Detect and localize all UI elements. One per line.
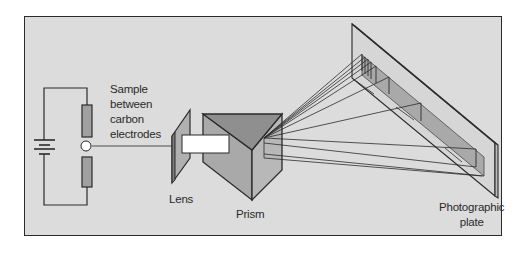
plate-label-line: Photographic: [439, 200, 504, 215]
sample-label-line: carbon: [110, 112, 161, 127]
sample-label-line: Sample: [110, 82, 161, 97]
sample-label-line: between: [110, 97, 161, 112]
lens-label: Lens: [169, 192, 193, 207]
battery-icon: [34, 140, 55, 154]
sample-sphere: [81, 141, 91, 151]
sample-label-line: electrodes: [110, 127, 161, 142]
lower-electrode: [82, 157, 92, 187]
prism-label: Prism: [236, 207, 264, 222]
circuit: [34, 88, 87, 205]
upper-electrode: [82, 105, 92, 137]
slit: [182, 135, 229, 153]
electrodes: [81, 105, 92, 187]
prism: [203, 114, 282, 200]
sample-label: Sample between carbon electrodes: [110, 82, 161, 142]
plate-label: Photographic plate: [439, 200, 504, 230]
plate-label-line: plate: [439, 215, 504, 230]
spectrum-band: [362, 55, 484, 176]
